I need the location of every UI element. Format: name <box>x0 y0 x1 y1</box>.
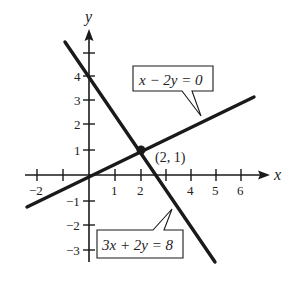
x-tick-label: 4 <box>187 183 194 198</box>
y-tick-label: −2 <box>66 218 80 233</box>
x-tick-label: −2 <box>29 183 43 198</box>
x-tick-label: 2 <box>137 183 144 198</box>
intersection-point <box>137 146 146 155</box>
x-axis-label: x <box>273 166 281 183</box>
callout-line2: 3x + 2y = 8 <box>97 209 183 258</box>
x-tick-label: 5 <box>212 183 219 198</box>
y-axis-label: y <box>83 8 93 26</box>
y-tick-label: 1 <box>74 143 81 158</box>
x-tick-label: 1 <box>111 183 118 198</box>
y-tick-label: −3 <box>66 243 80 258</box>
y-axis: 4 3 2 1 −1 −2 −3 y <box>66 8 95 262</box>
equation-label-line2: 3x + 2y = 8 <box>101 237 174 253</box>
y-tick-label: 4 <box>74 69 81 84</box>
y-tick-label: −1 <box>66 194 80 209</box>
y-tick-label: 3 <box>74 93 81 108</box>
linear-system-graph: −2 1 2 4 5 6 x 4 3 2 1 −1 −2 −3 y (2 <box>0 0 290 287</box>
intersection-label: (2, 1) <box>155 150 186 166</box>
equation-label-line1: x − 2y = 0 <box>138 72 203 88</box>
x-tick-label: 6 <box>237 183 244 198</box>
callout-line1: x − 2y = 0 <box>133 66 213 116</box>
y-tick-label: 2 <box>74 117 81 132</box>
